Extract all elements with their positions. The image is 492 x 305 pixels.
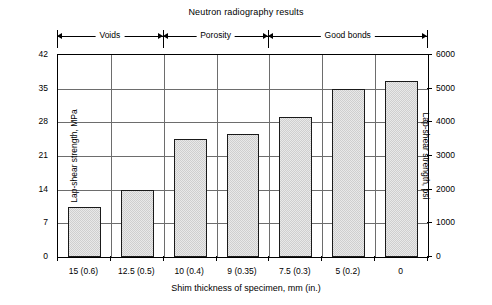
annotation-boundary-tick [163, 30, 164, 48]
x-axis-tick [163, 256, 164, 261]
plot-area: Lap-shear strength, MPaLap-shear strengt… [57, 54, 429, 258]
y-axis-tick-right [427, 54, 432, 55]
x-axis-label: 0 [398, 266, 403, 276]
annotation-group: Voids [57, 36, 163, 37]
y-axis-label-left: 7 [18, 217, 48, 227]
y-axis-tick-right [427, 155, 432, 156]
y-axis-tick-right [427, 222, 432, 223]
x-axis-label: 5 (0.2) [335, 266, 360, 276]
y-axis-label-right: 1000 [436, 217, 470, 227]
annotation-boundary-tick [57, 30, 58, 48]
y-axis-tick-right [427, 189, 432, 190]
y-axis-label-right: 0 [436, 251, 470, 261]
bar [332, 89, 365, 257]
category-separator [111, 55, 112, 257]
x-axis-label: 12.5 (0.5) [118, 266, 154, 276]
x-axis-title: Shim thickness of specimen, mm (in.) [0, 283, 492, 293]
x-axis-tick [216, 256, 217, 261]
y-axis-title-left: Lap-shear strength, MPa [69, 96, 79, 216]
y-axis-label-left: 0 [18, 251, 48, 261]
annotation-group: Good bonds [268, 36, 427, 37]
bar [227, 134, 260, 257]
x-axis-label: 15 (0.6) [69, 266, 98, 276]
y-axis-label-left: 14 [18, 184, 48, 194]
category-separator [375, 55, 376, 257]
x-axis-tick [321, 256, 322, 261]
annotation-label: Porosity [196, 30, 235, 41]
category-separator [322, 55, 323, 257]
y-axis-label-left: 28 [18, 116, 48, 126]
x-axis-label: 9 (0.35) [227, 266, 256, 276]
x-axis-label: 10 (0.4) [174, 266, 203, 276]
annotation-boundary-tick [427, 30, 428, 48]
x-axis-tick [374, 256, 375, 261]
y-axis-tick-right [427, 121, 432, 122]
bar [68, 207, 101, 258]
y-axis-label-right: 4000 [436, 116, 470, 126]
bar [385, 81, 418, 257]
bar [121, 190, 154, 257]
annotation-boundary-tick [268, 30, 269, 48]
category-annotation-band: VoidsPorosityGood bonds [57, 28, 429, 50]
category-separator [164, 55, 165, 257]
bar [279, 117, 312, 257]
x-axis-tick [268, 256, 269, 261]
annotation-group: Porosity [163, 36, 269, 37]
y-axis-tick-right [427, 88, 432, 89]
x-axis-tick [110, 256, 111, 261]
y-axis-title-right: Lap-shear strength, psi [421, 96, 431, 216]
gridline [58, 89, 428, 90]
annotation-label: Good bonds [321, 30, 375, 41]
x-axis-label: 7.5 (0.3) [279, 266, 311, 276]
y-axis-label-right: 3000 [436, 150, 470, 160]
y-axis-label-right: 6000 [436, 49, 470, 59]
y-axis-label-left: 42 [18, 49, 48, 59]
y-axis-label-right: 5000 [436, 83, 470, 93]
x-axis-tick [427, 256, 428, 261]
x-axis-tick [57, 256, 58, 261]
caption-remnant [0, 299, 492, 305]
category-separator [217, 55, 218, 257]
chart-figure: Neutron radiography results VoidsPorosit… [0, 0, 492, 305]
chart-title: Neutron radiography results [0, 8, 492, 17]
annotation-label: Voids [95, 30, 124, 41]
category-separator [269, 55, 270, 257]
gridline [58, 122, 428, 123]
y-axis-label-right: 2000 [436, 184, 470, 194]
bar [174, 139, 207, 257]
y-axis-label-left: 21 [18, 150, 48, 160]
y-axis-label-left: 35 [18, 83, 48, 93]
